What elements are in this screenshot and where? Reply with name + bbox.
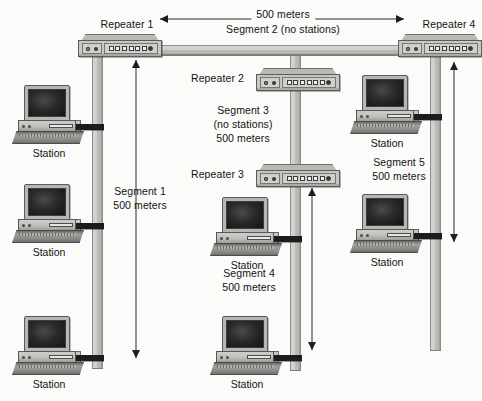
- station-s4-b[interactable]: Station: [210, 316, 284, 378]
- segment-4-dimension-arrow: [307, 188, 316, 350]
- port-icon: [135, 46, 140, 51]
- repeater-4-port-group: [424, 43, 478, 54]
- repeater-3-label: Repeater 3: [191, 168, 244, 180]
- segment-1-name-label: Segment 1: [114, 185, 166, 197]
- repeater-4-body: [398, 40, 482, 57]
- station-label: Station: [371, 137, 404, 149]
- segment-1-cable: [92, 56, 103, 368]
- station-s1-a[interactable]: Station: [12, 85, 86, 147]
- status-led-icon: [264, 177, 268, 181]
- repeater-2[interactable]: [256, 68, 340, 92]
- repeater-4[interactable]: [398, 34, 482, 58]
- port-icon: [313, 80, 318, 85]
- arrow-head-down-icon: [132, 350, 140, 358]
- status-led-icon: [414, 47, 418, 51]
- keyboard-icon: [12, 362, 84, 375]
- status-led-icon: [272, 177, 276, 181]
- port-icon: [115, 46, 120, 51]
- repeater-2-body: [256, 74, 340, 91]
- station-s4-a[interactable]: Station: [210, 197, 284, 259]
- keyboard-icon: [210, 243, 282, 256]
- keyboard-icon: [350, 240, 422, 253]
- keyboard-icon: [210, 362, 282, 375]
- aui-port-icon: [148, 46, 153, 51]
- port-icon: [109, 46, 114, 51]
- station-label: Station: [231, 259, 264, 271]
- aui-port-icon: [326, 80, 331, 85]
- monitor-icon: [24, 316, 70, 352]
- aui-port-icon: [326, 176, 331, 181]
- port-icon: [287, 80, 292, 85]
- system-unit: [216, 351, 274, 363]
- repeater-1-label: Repeater 1: [101, 18, 154, 30]
- status-led-icon: [406, 47, 410, 51]
- repeater-3-port-group: [282, 173, 336, 184]
- station-label: Station: [33, 378, 66, 390]
- port-icon: [307, 80, 312, 85]
- port-icon: [313, 176, 318, 181]
- arrow-head-up-icon: [308, 188, 316, 196]
- station-s5-b[interactable]: Station: [350, 194, 424, 256]
- arrow-head-down-icon: [450, 234, 458, 242]
- monitor-icon: [362, 75, 408, 111]
- aui-port-icon: [468, 46, 473, 51]
- monitor-icon: [362, 194, 408, 230]
- repeater-2-port-group: [282, 77, 336, 88]
- station-s5-a[interactable]: Station: [350, 75, 424, 137]
- system-unit: [18, 351, 76, 363]
- port-icon: [449, 46, 454, 51]
- network-diagram-canvas: Repeater 1 Repeater 2: [0, 0, 482, 401]
- system-unit: [18, 219, 76, 231]
- arrow-head-right-icon: [396, 15, 404, 23]
- station-s1-c[interactable]: Station: [12, 316, 86, 378]
- segment-2-length-label: 500 meters: [251, 8, 315, 20]
- station-s1-b[interactable]: Station: [12, 184, 86, 246]
- station-label: Station: [231, 378, 264, 390]
- repeater-1[interactable]: [78, 34, 162, 58]
- port-icon: [435, 46, 440, 51]
- port-icon: [320, 176, 325, 181]
- status-led-icon: [264, 81, 268, 85]
- arrow-head-down-icon: [308, 342, 316, 350]
- repeater-1-body: [78, 40, 162, 57]
- keyboard-icon: [350, 121, 422, 134]
- port-icon: [122, 46, 127, 51]
- repeater-3-body: [256, 170, 340, 187]
- status-led-icon: [86, 47, 90, 51]
- monitor-icon: [222, 316, 268, 352]
- port-icon: [293, 80, 298, 85]
- port-icon: [442, 46, 447, 51]
- port-icon: [129, 46, 134, 51]
- repeater-1-led-group: [82, 43, 102, 54]
- segment-4-length-label: 500 meters: [222, 281, 276, 293]
- port-icon: [320, 80, 325, 85]
- system-unit: [356, 110, 414, 122]
- port-icon: [455, 46, 460, 51]
- segment-5-length-label: 500 meters: [372, 170, 426, 182]
- segment-2-cable: [150, 45, 412, 56]
- system-unit: [18, 120, 76, 132]
- system-unit: [356, 229, 414, 241]
- segment-5-dimension-arrow: [449, 62, 458, 242]
- port-icon: [142, 46, 147, 51]
- port-icon: [300, 80, 305, 85]
- port-icon: [287, 176, 292, 181]
- arrow-head-left-icon: [160, 15, 168, 23]
- segment-1-length-label: 500 meters: [113, 199, 167, 211]
- station-label: Station: [33, 246, 66, 258]
- repeater-3-led-group: [260, 173, 280, 184]
- system-unit: [216, 232, 274, 244]
- segment-3-note-label: (no stations): [213, 118, 272, 130]
- segment-4-cable: [290, 180, 301, 370]
- segment-3-name-label: Segment 3: [217, 104, 269, 116]
- keyboard-icon: [12, 230, 84, 243]
- station-label: Station: [371, 256, 404, 268]
- port-icon: [293, 176, 298, 181]
- segment-2-name-label: Segment 2 (no stations): [226, 23, 340, 35]
- port-icon: [307, 176, 312, 181]
- status-led-icon: [94, 47, 98, 51]
- repeater-3[interactable]: [256, 164, 340, 188]
- status-led-icon: [272, 81, 276, 85]
- monitor-icon: [24, 184, 70, 220]
- arrow-head-up-icon: [132, 60, 140, 68]
